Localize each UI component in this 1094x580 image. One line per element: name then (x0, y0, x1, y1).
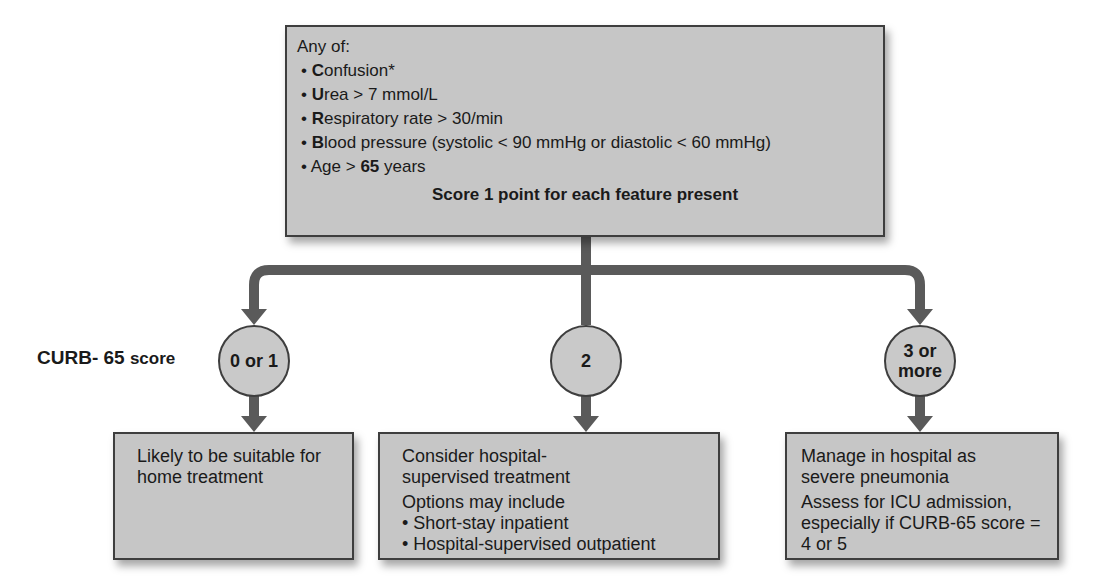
criterion-confusion: • Confusion* (297, 59, 873, 83)
outcome-hospital-supervised: Consider hospital-supervised treatment O… (378, 432, 720, 560)
curb65-score-label: CURB- 65 score (37, 347, 175, 369)
arrowhead-left-circle (241, 309, 267, 325)
outcome-severe-pneumonia: Manage in hospital as severe pneumonia A… (785, 432, 1059, 560)
arrowhead-right-circle (907, 309, 933, 325)
arrowhead-right-box (907, 416, 933, 432)
arrowhead-middle-box (573, 416, 599, 432)
bullet-outpatient: • Hospital-supervised outpatient (402, 534, 708, 555)
criterion-respiratory-rate: • Respiratory rate > 30/min (297, 107, 873, 131)
criterion-blood-pressure: • Blood pressure (systolic < 90 mmHg or … (297, 131, 873, 155)
right-branch-connector (905, 270, 920, 310)
score-circle-3-or-more: 3 or more (884, 325, 956, 397)
arrowhead-left-box (241, 416, 267, 432)
score-circle-0-1: 0 or 1 (218, 325, 290, 397)
score-circle-2: 2 (550, 325, 622, 397)
criteria-intro: Any of: (297, 35, 873, 59)
score-note: Score 1 point for each feature present (297, 183, 873, 207)
outcome-home-treatment: Likely to be suitable for home treatment (113, 432, 354, 560)
criterion-urea: • Urea > 7 mmol/L (297, 83, 873, 107)
criterion-age: • Age > 65 years (297, 155, 873, 179)
criteria-box: Any of: • Confusion* • Urea > 7 mmol/L •… (285, 25, 885, 237)
bullet-short-stay: • Short-stay inpatient (402, 513, 708, 534)
left-branch-connector (254, 270, 269, 310)
